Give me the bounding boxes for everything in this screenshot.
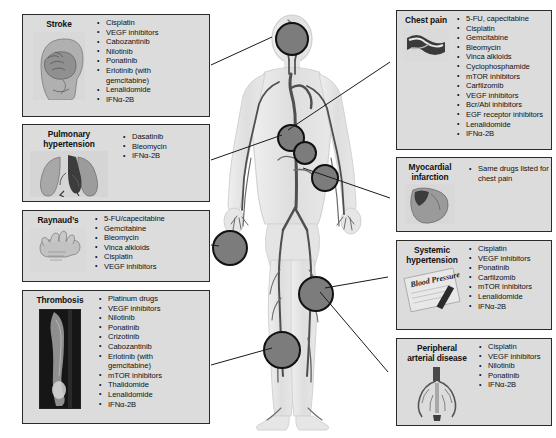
drug-list-item: Vinca alkloids (457, 52, 547, 62)
drug-list-item: IFNα-2B (97, 95, 205, 105)
body-marker-thigh[interactable] (298, 276, 334, 312)
systemic-drug-list: CisplatinVEGF inhibitorsPonatinibCarfilz… (463, 244, 547, 311)
stroke-title: Stroke (44, 19, 73, 30)
stroke-box-left: Stroke (27, 18, 91, 100)
drug-list-item: VEGF inhibitors (99, 304, 205, 314)
info-box-raynauds[interactable]: Raynaud’s 5-FU/capecitabineGemcitabineBl… (22, 210, 210, 282)
drug-list-item: VEGF inhibitors (97, 28, 205, 38)
drug-list-item: Cisplatin (97, 18, 205, 28)
drug-list-item: Bleomycin (95, 233, 205, 243)
leg-arteries-illustration (409, 365, 465, 423)
info-box-systemic-hypertension[interactable]: Systemic hypertension Blood Pressure Cis… (396, 240, 552, 330)
drug-list-item: Dasatinib (123, 132, 205, 142)
brain-head-illustration (33, 32, 85, 100)
drug-list-item: Bcr/Abl inhibitors (457, 100, 547, 110)
info-box-peripheral-arterial-disease[interactable]: Peripheral arterial disease CisplatinVEG… (396, 338, 552, 426)
raynauds-title: Raynaud’s (35, 215, 80, 226)
info-box-myocardial-infarction[interactable]: Myocardial infarction Same drugs listed … (396, 157, 552, 232)
chest-pain-box-left: Chest pain (401, 14, 451, 62)
drug-list-item: Carfilzomib (469, 273, 547, 283)
drug-list-item: VEGF inhibitors (479, 352, 547, 362)
body-marker-brain[interactable] (275, 22, 309, 56)
drug-list-item: chest pain (469, 174, 549, 184)
drug-list-item: IFNα-2B (457, 129, 547, 139)
coronary-artery-cross-section (403, 28, 449, 62)
drug-list-item: gemcitabine) (97, 76, 205, 86)
drug-list-item: Lenalidomide (99, 390, 205, 400)
drug-list-item: Platinum drugs (99, 294, 205, 304)
drug-list-item: Cisplatin (479, 342, 547, 352)
chest-pain-drug-list: 5-FU, capecitabineCisplatinGemcitabineBl… (451, 14, 547, 139)
drug-list-item: Nilotinib (479, 361, 547, 371)
pulmonary-title: Pulmonary hypertension (41, 129, 96, 149)
drug-list-item: Cabozantinib (97, 37, 205, 47)
info-box-pulmonary-hypertension[interactable]: Pulmonary hypertension DasatinibBleomyci… (22, 124, 210, 202)
human-body-figure (205, 8, 380, 433)
drug-list-item: IFNα-2B (469, 302, 547, 312)
blood-pressure-gauge: Blood Pressure (403, 267, 461, 313)
peripheral-drug-list: CisplatinVEGF inhibitorsNilotinibPonatin… (473, 342, 547, 390)
peripheral-title: Peripheral arterial disease (405, 343, 468, 363)
thrombosis-box-left: Thrombosis (27, 294, 93, 409)
drug-list-item: Ponatinib (479, 371, 547, 381)
heart-illustration (405, 184, 455, 224)
pulmonary-drug-list: DasatinibBleomycinIFNα-2B (111, 128, 205, 161)
hand-illustration (30, 228, 86, 272)
drug-list-item: Vinca alkloids (95, 243, 205, 253)
drug-list-item: mTOR inhibitors (457, 72, 547, 82)
drug-list-item: Ponatinib (97, 56, 205, 66)
drug-list-item: Cyclophosphamide (457, 62, 547, 72)
drug-list-item: Gemcitabine (457, 33, 547, 43)
drug-list-item: Nilotinib (97, 47, 205, 57)
vein-thrombus-ultrasound (39, 309, 81, 409)
raynauds-drug-list: 5-FU/capecitabineGemcitabineBleomycinVin… (89, 214, 205, 272)
myocardial-box-left: Myocardial infarction (401, 161, 459, 224)
drug-list-item: Ponatinib (469, 263, 547, 273)
systemic-title: Systemic hypertension (404, 245, 459, 265)
drug-list-item: mTOR inhibitors (99, 371, 205, 381)
info-box-thrombosis[interactable]: Thrombosis Platinum drugsVEGF inhibitors… (22, 290, 210, 424)
body-marker-hand[interactable] (212, 230, 248, 266)
drug-list-item: Cisplatin (95, 252, 205, 262)
drug-list-item: Cabozantinib (99, 342, 205, 352)
drug-list-item: VEGF inhibitors (469, 254, 547, 264)
drug-list-item: Nilotinib (99, 313, 205, 323)
drug-list-item: Same drugs listed for (469, 164, 549, 174)
drug-list-item: mTOR inhibitors (469, 282, 547, 292)
drug-list-item: Lenalidomide (469, 292, 547, 302)
body-marker-aorta[interactable] (311, 164, 339, 192)
thrombosis-title: Thrombosis (35, 295, 86, 306)
drug-list-item: Bleomycin (123, 142, 205, 152)
drug-list-item: Thalidomide (99, 380, 205, 390)
systemic-box-left: Systemic hypertension Blood Pressure (401, 244, 463, 313)
drug-list-item: VEGF inhibitors (457, 91, 547, 101)
thrombosis-drug-list: Platinum drugsVEGF inhibitorsNilotinibPo… (93, 294, 205, 409)
body-silhouette (224, 15, 361, 430)
chest-pain-title: Chest pain (403, 15, 449, 26)
drug-list-item: IFNα-2B (99, 400, 205, 410)
drug-list-item: Erlotinib (with (97, 66, 205, 76)
drug-list-item: Erlotinib (with (99, 352, 205, 362)
drug-list-item: VEGF inhibitors (95, 262, 205, 272)
peripheral-box-left: Peripheral arterial disease (401, 342, 473, 423)
drug-list-item: 5-FU, capecitabine (457, 14, 547, 24)
drug-list-item: Lenalidomide (97, 85, 205, 95)
drug-list-item: IFNα-2B (479, 380, 547, 390)
drug-list-item: Cisplatin (457, 24, 547, 34)
drug-list-item: IFNα-2B (123, 151, 205, 161)
drug-list-item: Ponatinib (99, 323, 205, 333)
body-marker-calf[interactable] (263, 331, 301, 369)
drug-list-item: 5-FU/capecitabine (95, 214, 205, 224)
drug-list-item: Cisplatin (469, 244, 547, 254)
myocardial-title: Myocardial infarction (407, 162, 454, 182)
lungs-heart-illustration (30, 151, 108, 197)
body-anatomy-svg (205, 8, 380, 433)
drug-list-item: Carfilzomib (457, 81, 547, 91)
body-marker-coronary[interactable] (293, 141, 317, 165)
drug-list-item: Gemcitabine (95, 224, 205, 234)
info-box-stroke[interactable]: Stroke CisplatinVEGF inhibitorsCabozanti… (22, 14, 210, 117)
drug-list-item: Crizotinib (99, 332, 205, 342)
drug-list-item: EGF receptor inhibitors (457, 110, 547, 120)
info-box-chest-pain[interactable]: Chest pain 5-FU, capecitabineCisplatinGe… (396, 10, 552, 150)
drug-list-item: gemcitabine) (99, 361, 205, 371)
